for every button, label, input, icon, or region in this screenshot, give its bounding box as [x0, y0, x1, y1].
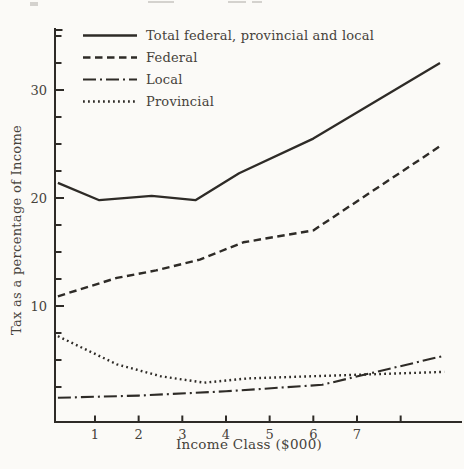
- series-line-dashdot: [58, 356, 444, 398]
- x-tick-label: 7: [353, 427, 361, 442]
- legend-line-solid-icon: [82, 32, 138, 39]
- chart-figure: 1020301234567 Total federal, provincial …: [0, 0, 464, 469]
- y-tick-label: 30: [30, 83, 47, 98]
- chart-legend: Total federal, provincial and local Fede…: [82, 24, 374, 112]
- y-axis-title: Tax as a percentage of Income: [9, 125, 24, 335]
- y-tick-label: 20: [30, 191, 47, 206]
- x-tick-label: 2: [134, 427, 142, 442]
- series-line-dotted: [58, 336, 444, 383]
- legend-item-total: Total federal, provincial and local: [82, 24, 374, 46]
- legend-line-dotted-icon: [82, 98, 138, 105]
- legend-label-local: Local: [146, 72, 183, 87]
- legend-item-federal: Federal: [82, 46, 374, 68]
- x-axis-title: Income Class ($000): [176, 436, 322, 452]
- legend-label-total: Total federal, provincial and local: [146, 28, 374, 43]
- legend-label-provincial: Provincial: [146, 94, 214, 109]
- legend-line-dashdot-icon: [82, 76, 138, 83]
- legend-label-federal: Federal: [146, 50, 198, 65]
- legend-item-provincial: Provincial: [82, 90, 374, 112]
- y-tick-label: 10: [30, 299, 47, 314]
- legend-item-local: Local: [82, 68, 374, 90]
- x-tick-label: 1: [91, 427, 99, 442]
- legend-line-dashed-icon: [82, 54, 138, 61]
